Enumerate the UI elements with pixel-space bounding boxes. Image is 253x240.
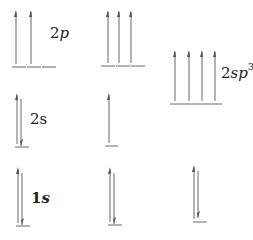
ground-1s-orbital xyxy=(16,169,30,226)
hybrid-1s-orbital xyxy=(193,167,207,222)
excited-2s-orbital xyxy=(105,95,118,146)
hybrid-sp3-orbitals xyxy=(170,52,222,104)
excited-1s-orbital xyxy=(108,169,122,225)
label-2p: 2p xyxy=(50,24,69,42)
label-1s: 1s xyxy=(31,189,50,207)
label-2sp3: 2sp3 xyxy=(221,64,253,82)
orbital-diagram: 2p 2s 1s 2sp3 xyxy=(0,0,253,240)
ground-2s-orbital xyxy=(15,95,29,147)
excited-2p-orbitals xyxy=(101,12,145,66)
label-2s: 2s xyxy=(30,110,47,128)
